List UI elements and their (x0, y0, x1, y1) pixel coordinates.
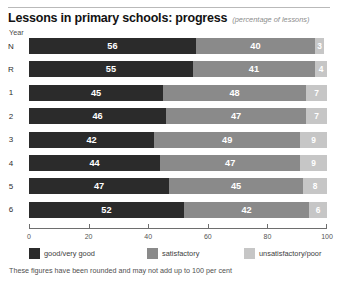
legend-swatch-icon (29, 248, 40, 259)
bar-value-label: 44 (89, 158, 99, 168)
bar-segment: 48 (163, 85, 306, 101)
y-axis-tick-label: 2 (0, 112, 22, 121)
top-rule (8, 7, 330, 8)
legend-label: good/very good (44, 249, 95, 258)
x-axis-tick (208, 224, 209, 229)
x-axis-tick-label: 20 (85, 233, 93, 240)
bar-value-label: 9 (311, 158, 316, 168)
x-axis-tick-label: 0 (27, 233, 31, 240)
bar-segment: 6 (309, 202, 327, 218)
bar-row: 45487 (29, 85, 327, 101)
y-axis-title: Year (9, 28, 24, 37)
bar-value-label: 3 (317, 41, 322, 51)
bar-value-label: 8 (313, 181, 318, 191)
legend-label: unsatisfactory/poor (259, 249, 321, 258)
x-axis-line (29, 228, 327, 229)
bar-segment: 47 (160, 155, 300, 171)
bar-row: 44479 (29, 155, 327, 171)
bar-row: 47458 (29, 178, 327, 194)
bar-segment: 9 (300, 155, 327, 171)
bar-value-label: 48 (229, 88, 239, 98)
legend-item[interactable]: unsatisfactory/poor (244, 248, 321, 259)
x-axis-tick (267, 224, 268, 229)
y-axis-tick-label: 3 (0, 135, 22, 144)
bar-value-label: 52 (101, 205, 111, 215)
y-axis-tick-label: 6 (0, 205, 22, 214)
bar-segment: 56 (29, 38, 196, 54)
bar-row: 52426 (29, 202, 327, 218)
bar-value-label: 42 (241, 205, 251, 215)
bar-value-label: 40 (250, 41, 260, 51)
bar-segment: 44 (29, 155, 160, 171)
bar-value-label: 56 (107, 41, 117, 51)
y-axis-tick-label: R (0, 65, 22, 74)
bar-value-label: 9 (311, 135, 316, 145)
bar-row: 46477 (29, 108, 327, 124)
x-axis-tick-label: 60 (204, 233, 212, 240)
bar-segment: 3 (315, 38, 324, 54)
x-axis-tick (29, 224, 30, 229)
bar-segment: 55 (29, 61, 193, 77)
bar-segment: 47 (29, 178, 169, 194)
page-title: Lessons in primary schools: progress (8, 11, 227, 25)
x-axis-tick-label: 100 (321, 233, 333, 240)
legend-item[interactable]: good/very good (29, 248, 95, 259)
legend-label: satisfactory (162, 249, 199, 258)
bar-segment: 40 (196, 38, 315, 54)
y-axis-tick-label: 5 (0, 182, 22, 191)
bar-segment: 41 (193, 61, 315, 77)
bar-value-label: 55 (106, 64, 116, 74)
bar-segment: 46 (29, 108, 166, 124)
x-axis-tick (89, 224, 90, 229)
bar-segment: 7 (306, 85, 327, 101)
bar-segment: 9 (300, 132, 327, 148)
y-axis-tick-label: 1 (0, 88, 22, 97)
bar-value-label: 47 (231, 111, 241, 121)
bar-value-label: 45 (91, 88, 101, 98)
chart-header: Lessons in primary schools: progress (pe… (8, 11, 332, 25)
bar-value-label: 4 (319, 64, 324, 74)
chart-legend: good/very goodsatisfactoryunsatisfactory… (29, 248, 329, 260)
y-axis-tick-label: N (0, 42, 22, 51)
chart-figure: Lessons in primary schools: progress (pe… (0, 0, 338, 281)
bar-value-label: 41 (249, 64, 259, 74)
bar-segment: 47 (166, 108, 306, 124)
bar-value-label: 46 (92, 111, 102, 121)
x-axis-tick-label: 40 (144, 233, 152, 240)
bar-value-label: 47 (225, 158, 235, 168)
bar-row: 56403 (29, 38, 327, 54)
bar-segment: 45 (169, 178, 303, 194)
y-axis-tick-label: 4 (0, 159, 22, 168)
bar-segment: 4 (315, 61, 327, 77)
bar-value-label: 47 (94, 181, 104, 191)
bar-value-label: 49 (222, 135, 232, 145)
bar-segment: 52 (29, 202, 184, 218)
bar-segment: 8 (303, 178, 327, 194)
bar-segment: 42 (29, 132, 154, 148)
plot-area: 5640355414454874647742499444794745852426 (29, 38, 327, 224)
bar-value-label: 7 (314, 111, 319, 121)
bar-segment: 45 (29, 85, 163, 101)
x-axis-tick-label: 80 (263, 233, 271, 240)
footnote: These figures have been rounded and may … (9, 266, 232, 275)
bar-value-label: 7 (314, 88, 319, 98)
bar-segment: 49 (154, 132, 300, 148)
legend-item[interactable]: satisfactory (147, 248, 199, 259)
bar-value-label: 6 (316, 205, 321, 215)
bar-row: 55414 (29, 61, 327, 77)
legend-swatch-icon (147, 248, 158, 259)
chart-subtitle: (percentage of lessons) (232, 15, 309, 24)
bar-segment: 7 (306, 108, 327, 124)
legend-swatch-icon (244, 248, 255, 259)
bar-value-label: 42 (86, 135, 96, 145)
bar-segment: 42 (184, 202, 309, 218)
x-axis-tick (148, 224, 149, 229)
bar-value-label: 45 (231, 181, 241, 191)
bar-row: 42499 (29, 132, 327, 148)
x-axis-tick (326, 224, 327, 229)
